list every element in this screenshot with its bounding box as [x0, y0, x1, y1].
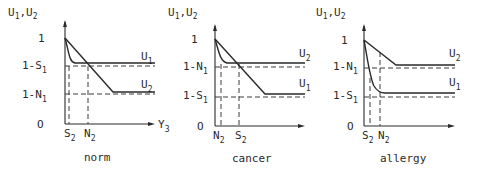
y-axis-arrow-icon — [63, 20, 67, 27]
panel-caption: allergy — [380, 152, 427, 165]
curve-label-upper: U2 — [299, 47, 311, 63]
y-axis-label: U1,U2 — [316, 6, 346, 21]
panel-cancer: U1,U2 1 1-N1 1-S1 O U2 U1 N2 S2 cancer — [168, 6, 311, 165]
x-tick-first: N2 — [213, 129, 225, 145]
y-tick-upper: 1-S1 — [22, 59, 47, 75]
x-axis-arrow-icon — [448, 124, 455, 128]
curve-fast — [215, 39, 305, 63]
curve-label-lower: U1 — [449, 76, 461, 92]
y-tick-zero: O — [37, 118, 44, 131]
x-tick-second: S2 — [235, 129, 247, 145]
y-tick-zero: O — [347, 120, 354, 133]
curve-label-lower: U1 — [299, 77, 311, 93]
panel-allergy: U1,U2 1 1-N1 1-S1 O U2 U1 S2 N2 allergy — [316, 6, 461, 165]
panel-caption: norm — [84, 151, 111, 164]
x-axis-arrow-icon — [148, 122, 155, 126]
curve-fast-deep — [364, 40, 455, 93]
x-axis-arrow-icon — [298, 124, 305, 128]
x-axis-label: Y3 — [158, 118, 170, 134]
x-tick-first: S2 — [64, 127, 76, 143]
y-axis-arrow-icon — [213, 24, 217, 31]
y-tick-one: 1 — [191, 33, 198, 46]
y-axis-label: U1,U2 — [8, 6, 38, 21]
y-tick-one: 1 — [38, 32, 45, 45]
y-tick-upper: 1-N1 — [333, 60, 358, 76]
panel-norm: U1,U2 1 1-S1 1-N1 O U1 U2 S2 N2 Y3 norm — [8, 6, 170, 164]
x-tick-second: N2 — [84, 127, 96, 143]
y-tick-lower: 1-S1 — [333, 89, 358, 105]
y-tick-lower: 1-N1 — [22, 88, 47, 104]
y-axis-label: U1,U2 — [168, 6, 198, 21]
y-tick-zero: O — [197, 120, 204, 133]
y-tick-one: 1 — [341, 34, 348, 47]
x-tick-second: N2 — [378, 129, 390, 145]
y-axis-arrow-icon — [362, 24, 366, 31]
figure-three-panels: U1,U2 1 1-S1 1-N1 O U1 U2 S2 N2 Y3 norm … — [0, 0, 477, 178]
x-tick-first: S2 — [362, 129, 374, 145]
panel-caption: cancer — [232, 152, 272, 165]
y-tick-lower: 1-S1 — [183, 89, 208, 105]
curve-moderate — [364, 40, 455, 65]
curve-label-upper: U2 — [449, 47, 461, 63]
y-tick-upper: 1-N1 — [183, 60, 208, 76]
